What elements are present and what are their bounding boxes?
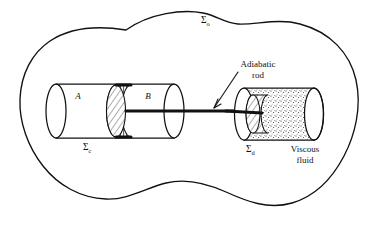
sigma-c-symbol: Σc bbox=[83, 142, 92, 154]
adiabatic-rod-label-line1: Adiabatic bbox=[241, 59, 276, 69]
sigma-d-symbol: Σd bbox=[246, 144, 256, 156]
right-cylinder-right-cap bbox=[314, 88, 324, 140]
sigma-o-symbol: Σo bbox=[201, 15, 210, 27]
diagram-canvas: Σo Σc Σd A B Adiabatic rod Viscous fluid bbox=[0, 0, 378, 225]
adiabatic-rod-inner-segment bbox=[226, 111, 262, 113]
adiabatic-rod-label-line2: rod bbox=[252, 70, 264, 80]
viscous-fluid-label-line2: fluid bbox=[297, 155, 314, 165]
chamber-b-label: B bbox=[145, 91, 151, 101]
adiabatic-rod-pointer bbox=[214, 72, 238, 108]
right-cylinder-right-cap-ellipse bbox=[305, 88, 324, 140]
left-cylinder-left-cap bbox=[46, 84, 66, 138]
diagram-svg: Σo Σc Σd A B Adiabatic rod Viscous fluid bbox=[0, 0, 378, 225]
chamber-a-label: A bbox=[74, 91, 81, 101]
viscous-fluid-label-line1: Viscous bbox=[291, 144, 320, 154]
outer-system-boundary bbox=[20, 12, 358, 206]
